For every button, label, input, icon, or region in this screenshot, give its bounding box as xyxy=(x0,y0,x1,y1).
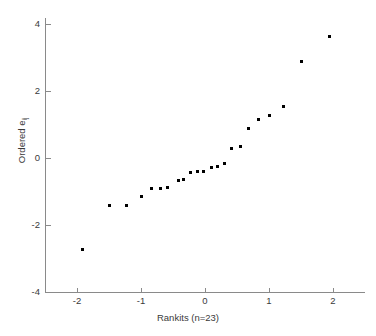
data-point xyxy=(257,118,260,121)
data-point xyxy=(196,170,199,173)
data-point xyxy=(202,170,205,173)
data-point xyxy=(300,60,303,63)
data-point xyxy=(210,166,213,169)
y-axis-title-base: Ordered e xyxy=(16,120,27,163)
data-point xyxy=(328,35,331,38)
data-point xyxy=(216,165,219,168)
data-point xyxy=(150,187,153,190)
x-axis-title: Rankits (n=23) xyxy=(0,312,376,323)
y-axis-title-subscript: ij xyxy=(21,118,28,121)
data-point xyxy=(125,204,128,207)
data-point xyxy=(166,186,169,189)
normal-probability-plot: -4-2024 -2-1012 Rankits (n=23) Ordered e… xyxy=(0,0,376,336)
data-point xyxy=(189,171,192,174)
data-point xyxy=(81,248,84,251)
data-point xyxy=(177,179,180,182)
data-point xyxy=(182,178,185,181)
data-point xyxy=(223,162,226,165)
data-point xyxy=(230,147,233,150)
data-point xyxy=(239,145,242,148)
scatter-data-layer xyxy=(0,0,376,336)
data-point xyxy=(140,195,143,198)
data-point xyxy=(268,114,271,117)
data-point xyxy=(282,105,285,108)
data-point xyxy=(247,127,250,130)
data-point xyxy=(159,187,162,190)
y-axis-title: Ordered eij xyxy=(16,70,29,210)
data-point xyxy=(108,204,111,207)
